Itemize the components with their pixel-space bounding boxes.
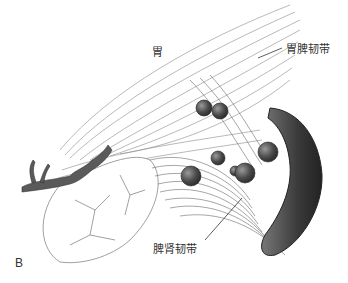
label-splenorenal-ligament: 脾肾韧带 xyxy=(153,240,197,256)
label-gastrosplenic-ligament: 胃脾韧带 xyxy=(286,40,330,56)
spleen xyxy=(262,108,322,256)
omentum xyxy=(43,157,158,262)
lymph-node xyxy=(211,151,225,165)
lymph-nodes xyxy=(181,100,278,186)
lymph-node xyxy=(258,142,278,162)
label-stomach: 胃 xyxy=(152,43,163,59)
leader-gastrosplenic xyxy=(258,48,282,58)
leader-splenorenal xyxy=(205,198,242,240)
lymph-node xyxy=(235,163,255,183)
panel-label: B xyxy=(15,256,23,270)
lymph-node xyxy=(181,166,201,186)
lymph-node xyxy=(196,100,212,116)
lymph-node xyxy=(212,103,228,119)
